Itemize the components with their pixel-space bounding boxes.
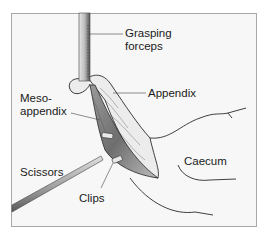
label-mesoappendix-2: appendix [20,105,67,118]
label-grasping-forceps-2: forceps [125,40,163,53]
label-appendix: Appendix [148,87,196,100]
label-caecum: Caecum [184,155,227,168]
grasping-forceps-shaft [79,13,90,81]
label-grasping-forceps-1: Grasping [125,27,172,40]
label-mesoappendix-1: Meso- [20,92,52,105]
label-clips: Clips [79,192,105,205]
label-scissors: Scissors [20,166,63,179]
